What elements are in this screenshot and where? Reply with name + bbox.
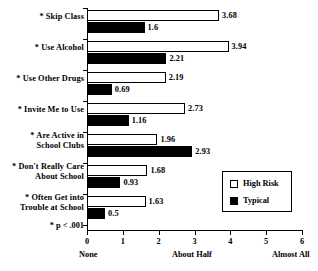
x-axis-tick-label: 2 bbox=[149, 237, 169, 247]
x-axis-tick-label: 6 bbox=[292, 237, 312, 247]
category-label-line: * Often Get into bbox=[0, 193, 84, 203]
x-axis-tick bbox=[302, 230, 303, 235]
bar-value-high-risk-often-get-into-trouble-at-school: 1.63 bbox=[149, 196, 164, 207]
legend-label: High Risk bbox=[243, 179, 279, 189]
bar-value-high-risk-use-alcohol: 3.94 bbox=[232, 41, 247, 52]
category-label-invite-me-to-use: * Invite Me to Use bbox=[0, 105, 84, 115]
bar-value-high-risk-dont-really-care-about-school: 1.68 bbox=[150, 165, 165, 176]
x-axis-tick bbox=[87, 230, 88, 235]
bar-high-risk-use-other-drugs bbox=[87, 72, 166, 83]
bar-high-risk-use-alcohol bbox=[87, 41, 229, 52]
bar-high-risk-invite-me-to-use bbox=[87, 103, 185, 114]
legend-swatch-black-square-icon bbox=[230, 197, 238, 205]
category-label-skip-class: * Skip Class bbox=[0, 12, 84, 22]
x-axis-tick-label: 4 bbox=[220, 237, 240, 247]
category-label-line: About School bbox=[0, 172, 84, 182]
x-axis-tick bbox=[266, 230, 267, 235]
x-axis-tick-label: 1 bbox=[113, 237, 133, 247]
x-axis-anchor-label-about-half: About Half bbox=[172, 250, 212, 260]
bar-typical-invite-me-to-use bbox=[87, 115, 129, 126]
bar-value-high-risk-use-other-drugs: 2.19 bbox=[169, 72, 184, 83]
category-label-line: School Clubs bbox=[0, 141, 84, 151]
bar-high-risk-are-active-in-school-clubs bbox=[87, 134, 157, 145]
category-label-use-alcohol: * Use Alcohol bbox=[0, 43, 84, 53]
bar-value-typical-dont-really-care-about-school: 0.93 bbox=[123, 177, 138, 188]
bar-value-typical-often-get-into-trouble-at-school: 0.5 bbox=[108, 208, 119, 219]
legend-item-high-risk: High Risk bbox=[230, 178, 279, 189]
category-label-line: * Are Active in bbox=[0, 131, 84, 141]
category-label-line: * Don't Really Care bbox=[0, 162, 84, 172]
x-axis-tick-label: 5 bbox=[256, 237, 276, 247]
bar-value-typical-use-alcohol: 2.21 bbox=[169, 53, 184, 64]
bar-typical-often-get-into-trouble-at-school bbox=[87, 208, 105, 219]
bar-value-high-risk-invite-me-to-use: 2.73 bbox=[188, 103, 203, 114]
bar-typical-use-other-drugs bbox=[87, 84, 112, 95]
category-label-line: * Invite Me to Use bbox=[0, 105, 84, 115]
legend-item-typical: Typical bbox=[230, 195, 269, 206]
legend-swatch-white-square-icon bbox=[230, 180, 238, 188]
x-axis-tick-label: 3 bbox=[185, 237, 205, 247]
legend: High Risk Typical bbox=[222, 171, 292, 212]
x-axis-tick bbox=[230, 230, 231, 235]
category-label-line: * Use Other Drugs bbox=[0, 74, 84, 84]
bar-typical-are-active-in-school-clubs bbox=[87, 146, 192, 157]
bar-value-high-risk-skip-class: 3.68 bbox=[222, 10, 237, 21]
bar-value-typical-skip-class: 1.6 bbox=[148, 22, 159, 33]
significance-footnote: * p < .001 bbox=[0, 221, 84, 231]
category-label-are-active-in-school-clubs: * Are Active in School Clubs bbox=[0, 131, 84, 150]
category-label-line: * Use Alcohol bbox=[0, 43, 84, 53]
x-axis-tick bbox=[159, 230, 160, 235]
bar-value-typical-are-active-in-school-clubs: 2.93 bbox=[195, 146, 210, 157]
bar-high-risk-dont-really-care-about-school bbox=[87, 165, 147, 176]
bar-typical-use-alcohol bbox=[87, 53, 166, 64]
bar-value-high-risk-are-active-in-school-clubs: 1.96 bbox=[160, 134, 175, 145]
bar-high-risk-skip-class bbox=[87, 10, 219, 21]
x-axis-anchor-label-none: None bbox=[79, 250, 97, 260]
x-axis-tick bbox=[195, 230, 196, 235]
category-label-dont-really-care-about-school: * Don't Really Care About School bbox=[0, 162, 84, 181]
category-label-line: * Skip Class bbox=[0, 12, 84, 22]
x-axis-anchor-label-almost-all: Almost All bbox=[272, 250, 310, 260]
bar-chart: * Skip Class * Use Alcohol * Use Other D… bbox=[0, 0, 318, 271]
x-axis-tick bbox=[123, 230, 124, 235]
bar-typical-dont-really-care-about-school bbox=[87, 177, 120, 188]
category-label-use-other-drugs: * Use Other Drugs bbox=[0, 74, 84, 84]
x-axis-tick-label: 0 bbox=[77, 237, 97, 247]
bar-value-typical-use-other-drugs: 0.69 bbox=[115, 84, 130, 95]
category-label-line: Trouble at School bbox=[0, 203, 84, 213]
category-label-often-get-into-trouble-at-school: * Often Get into Trouble at School bbox=[0, 193, 84, 212]
bar-typical-skip-class bbox=[87, 22, 145, 33]
legend-label: Typical bbox=[243, 196, 269, 206]
bar-high-risk-often-get-into-trouble-at-school bbox=[87, 196, 146, 207]
bar-value-typical-invite-me-to-use: 1.16 bbox=[132, 115, 147, 126]
